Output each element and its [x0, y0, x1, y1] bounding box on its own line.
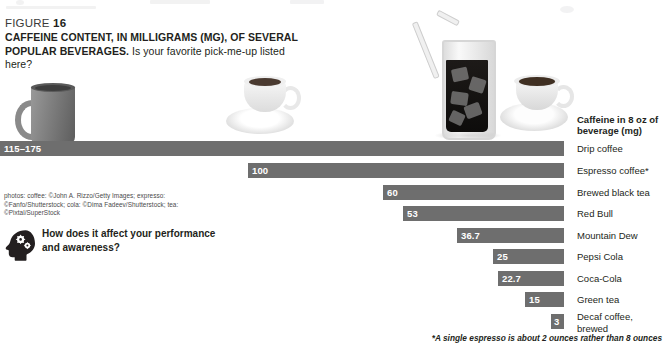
- bar-drip-coffee[interactable]: 115–175: [0, 141, 564, 156]
- bar-value-label: 115–175: [4, 142, 41, 155]
- bar-row[interactable]: 22.7: [498, 271, 564, 286]
- category-label-brewed-black-tea: Brewed black tea: [577, 187, 650, 198]
- bar-row[interactable]: 3: [551, 314, 564, 329]
- bar-mountain-dew[interactable]: 36.7: [457, 228, 564, 243]
- bar-row[interactable]: 100: [248, 163, 564, 178]
- photo-credits-line1: photos: coffee: ©John A. Rizzo/Getty Ima…: [4, 192, 222, 201]
- category-label-coca-cola: Coca-Cola: [577, 273, 622, 284]
- footnote: *A single espresso is about 2 ounces rat…: [432, 333, 662, 343]
- bar-pepsi-cola[interactable]: 25: [493, 249, 564, 264]
- category-label-mountain-dew: Mountain Dew: [577, 230, 638, 241]
- bar-decaf-coffee[interactable]: 3: [551, 314, 564, 329]
- bar-value-label: 3: [554, 315, 559, 328]
- bar-row[interactable]: 36.7: [457, 228, 564, 243]
- bar-brewed-black-tea[interactable]: 60: [383, 185, 564, 200]
- bar-espresso-coffee[interactable]: 100: [248, 163, 564, 178]
- bar-chart: 115–175 Drip coffee 100 Espresso coffee*…: [0, 0, 668, 350]
- bar-value-label: 25: [497, 250, 508, 263]
- category-label-decaf-coffee: Decaf coffee, brewed: [577, 311, 633, 334]
- bar-value-label: 36.7: [461, 229, 480, 242]
- bar-value-label: 53: [407, 207, 418, 220]
- category-label-pepsi-cola: Pepsi Cola: [577, 251, 623, 262]
- bar-value-label: 100: [252, 164, 268, 177]
- bar-row[interactable]: 25: [493, 249, 564, 264]
- category-label-red-bull: Red Bull: [577, 208, 613, 219]
- category-label-green-tea: Green tea: [577, 294, 619, 305]
- bar-row[interactable]: 60: [383, 185, 564, 200]
- bar-red-bull[interactable]: 53: [403, 206, 564, 221]
- figure-canvas: FIGURE 16 CAFFEINE CONTENT, IN MILLIGRAM…: [0, 0, 668, 350]
- bar-row[interactable]: 15: [525, 292, 564, 307]
- photo-credits: photos: coffee: ©John A. Rizzo/Getty Ima…: [4, 192, 222, 218]
- bar-value-label: 60: [387, 186, 398, 199]
- bar-row[interactable]: 115–175: [0, 141, 564, 156]
- photo-credits-line3: ©Pixtal/SuperStock: [4, 209, 222, 218]
- bar-row[interactable]: 53: [403, 206, 564, 221]
- reflection-question-line1: How does it affect your performance: [42, 227, 222, 241]
- category-label-decaf-coffee-line1: Decaf coffee,: [577, 311, 633, 323]
- photo-credits-line2: ©Fanfo/Shutterstock; cola: ©Dima Fadeev/…: [4, 201, 222, 210]
- category-label-espresso-coffee: Espresso coffee*: [577, 165, 649, 176]
- reflection-question-text: How does it affect your performance and …: [42, 227, 222, 255]
- brain-head-gears-icon: [4, 229, 34, 257]
- bar-value-label: 15: [529, 293, 540, 306]
- reflection-question-line2: and awareness?: [42, 241, 222, 255]
- bar-value-label: 22.7: [502, 272, 521, 285]
- bar-coca-cola[interactable]: 22.7: [498, 271, 564, 286]
- category-label-drip-coffee: Drip coffee: [577, 143, 623, 154]
- bar-green-tea[interactable]: 15: [525, 292, 564, 307]
